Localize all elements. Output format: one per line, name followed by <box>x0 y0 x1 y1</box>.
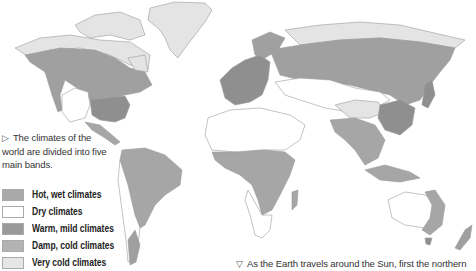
legend-label: Warm, mild climates <box>32 223 114 234</box>
legend-item-warm-mild: Warm, mild climates <box>2 220 129 237</box>
region-eastern-us <box>90 96 130 122</box>
region-greenland <box>148 2 212 58</box>
legend-swatch <box>2 189 24 201</box>
legend-item-damp-cold: Damp, cold climates <box>2 237 129 254</box>
region-new-zealand <box>455 225 472 250</box>
region-europe <box>220 55 270 105</box>
legend-label: Hot, wet climates <box>32 189 101 200</box>
legend-label: Damp, cold climates <box>32 240 114 251</box>
climate-legend: Hot, wet climates Dry climates Warm, mil… <box>2 186 129 271</box>
triangle-right-icon: ▷ <box>2 133 9 143</box>
region-indonesia <box>365 165 420 182</box>
region-south-asia <box>330 118 385 165</box>
map-caption-text: The climates of the world are divided in… <box>2 132 107 170</box>
legend-item-dry: Dry climates <box>2 203 129 220</box>
triangle-down-icon: ▽ <box>236 259 243 269</box>
bottom-caption: ▽As the Earth travels around the Sun, fi… <box>236 257 476 271</box>
region-china <box>378 100 415 135</box>
region-western-us-dry <box>62 88 90 122</box>
region-canadian-arctic <box>75 12 145 40</box>
legend-swatch <box>2 240 24 252</box>
region-tasmania <box>425 238 432 245</box>
map-caption: ▷The climates of the world are divided i… <box>2 131 112 171</box>
legend-label: Very cold climates <box>32 257 106 268</box>
legend-item-very-cold: Very cold climates <box>2 254 129 271</box>
region-madagascar <box>292 190 298 210</box>
legend-swatch <box>2 223 24 235</box>
bottom-caption-text: As the Earth travels around the Sun, fir… <box>247 258 466 269</box>
legend-swatch <box>2 257 24 269</box>
legend-label: Dry climates <box>32 206 83 217</box>
region-sahara-arabia <box>205 108 305 152</box>
legend-item-hot-wet: Hot, wet climates <box>2 186 129 203</box>
legend-swatch <box>2 206 24 218</box>
